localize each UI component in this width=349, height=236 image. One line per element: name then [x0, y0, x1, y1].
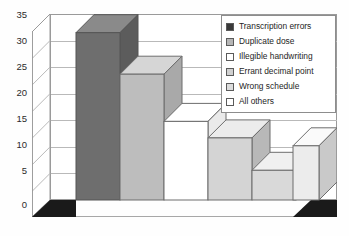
legend-label-wrong-schedule: Wrong schedule: [239, 82, 299, 91]
legend-label-all-others: All others: [239, 97, 274, 106]
legend-item-transcription-errors[interactable]: Transcription errors: [226, 19, 331, 34]
legend-item-illegible-handwriting[interactable]: Illegible handwriting: [226, 49, 331, 64]
y-tick-label-10: 10: [16, 140, 27, 150]
y-tick-label-5: 5: [22, 166, 27, 176]
legend-swatch-all-others: [226, 98, 234, 106]
legend-label-transcription-errors: Transcription errors: [239, 22, 311, 31]
y-axis: 35 30 25 20 15 10 5 0: [0, 0, 27, 236]
chart-legend: Transcription errors Duplicate dose Ille…: [221, 15, 336, 113]
legend-label-illegible-handwriting: Illegible handwriting: [239, 52, 313, 61]
legend-label-errant-decimal-point: Errant decimal point: [239, 67, 313, 76]
legend-swatch-transcription-errors: [226, 23, 234, 31]
legend-item-all-others[interactable]: All others: [226, 94, 331, 109]
legend-item-wrong-schedule[interactable]: Wrong schedule: [226, 79, 331, 94]
y-tick-label-25: 25: [16, 62, 27, 72]
legend-swatch-wrong-schedule: [226, 83, 234, 91]
y-tick-label-15: 15: [16, 114, 27, 124]
legend-label-duplicate-dose: Duplicate dose: [239, 37, 294, 46]
chart-figure: 35 30 25 20 15 10 5 0: [0, 0, 349, 236]
legend-swatch-duplicate-dose: [226, 38, 234, 46]
legend-swatch-errant-decimal-point: [226, 68, 234, 76]
y-tick-label-0: 0: [22, 200, 27, 210]
y-tick-label-30: 30: [16, 36, 27, 46]
legend-item-duplicate-dose[interactable]: Duplicate dose: [226, 34, 331, 49]
y-tick-label-20: 20: [16, 88, 27, 98]
legend-swatch-illegible-handwriting: [226, 53, 234, 61]
y-tick-label-35: 35: [16, 10, 27, 20]
bar-all-others[interactable]: [293, 128, 337, 200]
legend-item-errant-decimal-point[interactable]: Errant decimal point: [226, 64, 331, 79]
plot-area: Transcription errors Duplicate dose Ille…: [32, 14, 337, 217]
